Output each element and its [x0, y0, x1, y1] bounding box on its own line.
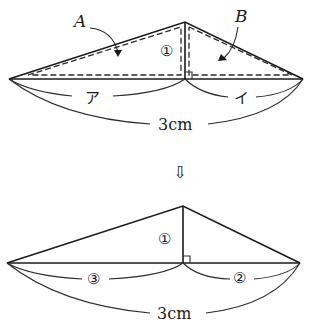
- label-B: B: [234, 6, 248, 26]
- bottom-triangle-sides: [7, 206, 300, 263]
- brace-total-right: [206, 263, 300, 313]
- down-arrow-icon: ⇩: [173, 162, 187, 182]
- arrow-B-head: [218, 54, 227, 61]
- bottom-right-angle-mark: [183, 256, 190, 263]
- triangle-A-dashed: [28, 27, 181, 75]
- bottom-total-length-label: 3cm: [157, 304, 191, 323]
- brace-a-right: [113, 79, 185, 96]
- label-a-segment: ア: [85, 89, 100, 107]
- diagram-canvas: A B ① ア イ 3cm ⇩ ① ③ ② 3cm: [0, 0, 311, 335]
- brace-2-left: [183, 263, 230, 279]
- arrow-A-head: [114, 50, 122, 57]
- right-ratio-label: ②: [233, 269, 246, 287]
- label-A: A: [72, 11, 86, 31]
- top-figure: A B ① ア イ 3cm: [9, 6, 303, 134]
- label-i-segment: イ: [234, 89, 249, 107]
- top-height-label: ①: [160, 42, 173, 60]
- brace-2-right: [254, 263, 300, 279]
- top-triangle-sides: [9, 22, 303, 79]
- top-total-length-label: 3cm: [158, 115, 192, 134]
- brace-i-left: [185, 79, 228, 97]
- left-ratio-label: ③: [87, 270, 100, 288]
- brace-a-left: [9, 79, 72, 96]
- brace-total-left: [7, 263, 150, 313]
- brace-3-right: [109, 263, 183, 279]
- bottom-height-label: ①: [158, 230, 171, 248]
- triangle-B-dashed: [189, 27, 292, 75]
- brace-total-left: [9, 79, 150, 124]
- brace-total-right: [208, 79, 303, 124]
- bottom-figure: ① ③ ② 3cm: [7, 206, 300, 323]
